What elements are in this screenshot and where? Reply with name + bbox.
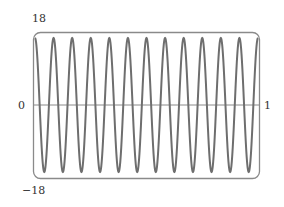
y-max-label: 18	[32, 13, 46, 24]
y-min-label: −18	[22, 185, 45, 196]
x-max-label: 1	[264, 100, 271, 111]
chart-plot	[0, 0, 284, 207]
x-min-label: 0	[18, 100, 25, 111]
